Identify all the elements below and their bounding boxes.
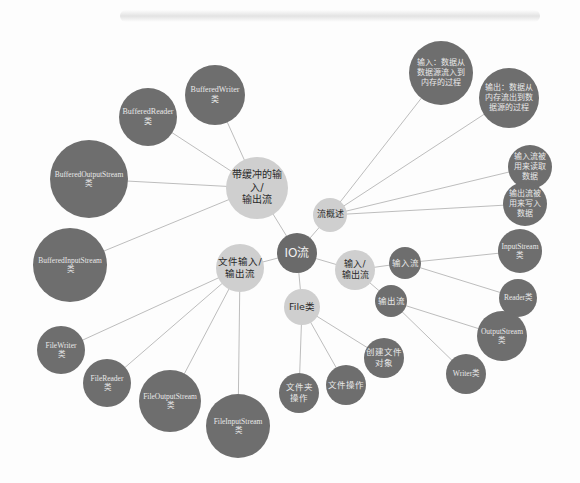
node-label: InputStream 类: [499, 242, 540, 261]
node-bw[interactable]: BufferedWriter 类: [185, 65, 245, 125]
node-label: 输出：数据从 内存流出到数 据源的过程: [483, 83, 535, 113]
node-fos[interactable]: FileOutputStream 类: [139, 370, 201, 432]
node-fr[interactable]: FileReader 类: [83, 359, 131, 407]
node-label: 输出流被 用来写入 数据: [507, 189, 543, 219]
node-label: 输入：数据从 数据源流入到 内存的过程: [415, 58, 467, 88]
mind-map-canvas: IO流带缓冲的输入/ 输出流流概述文件输入/ 输出流输入/ 输出流File类Bu…: [0, 0, 580, 483]
node-label: 文件操作: [326, 380, 366, 391]
node-label: 带缓冲的输入/ 输出流: [226, 169, 288, 207]
node-in_def[interactable]: 输入：数据从 数据源流入到 内存的过程: [409, 41, 473, 105]
node-fw[interactable]: FileWriter 类: [37, 326, 85, 374]
node-label: IO流: [283, 246, 312, 261]
node-label: 输出流: [376, 296, 407, 307]
node-label: FileReader 类: [89, 374, 126, 393]
node-file[interactable]: File类: [284, 289, 320, 325]
node-label: OutputStream 类: [479, 327, 525, 346]
node-label: Writer类: [451, 369, 481, 378]
node-io[interactable]: IO流: [277, 233, 317, 273]
node-writer[interactable]: Writer类: [446, 354, 486, 394]
node-label: FileInputStream 类: [212, 417, 265, 436]
edge-overview-out_use: [330, 204, 525, 215]
edge-overview-out_def: [330, 98, 509, 215]
node-create[interactable]: 创建文件 对象: [364, 338, 404, 378]
node-br[interactable]: BufferedReader 类: [119, 88, 177, 146]
node-fileio[interactable]: 文件输入/ 输出流: [216, 244, 264, 292]
node-label: 文件夹 操作: [284, 382, 315, 403]
node-label: 流概述: [315, 209, 346, 220]
node-label: BufferedInputStream 类: [36, 256, 104, 275]
node-label: FileOutputStream 类: [141, 392, 199, 411]
node-label: 文件输入/ 输出流: [216, 256, 263, 280]
node-label: 输入/ 输出流: [340, 259, 371, 282]
node-label: BufferedWriter 类: [189, 85, 242, 105]
node-is[interactable]: InputStream 类: [498, 229, 542, 273]
node-label: 输入流被 用来读取 数据: [512, 152, 548, 182]
edge-fileio-fr: [107, 268, 240, 383]
node-out_use[interactable]: 输出流被 用来写入 数据: [503, 182, 547, 226]
node-label: BufferedReader 类: [121, 107, 176, 127]
node-label: Reader类: [502, 293, 534, 302]
node-os[interactable]: OutputStream 类: [477, 311, 527, 361]
node-bis[interactable]: BufferedInputStream 类: [33, 228, 107, 302]
node-inout[interactable]: 输入/ 输出流: [335, 250, 375, 290]
node-folder[interactable]: 文件夹 操作: [279, 373, 319, 413]
node-overview[interactable]: 流概述: [313, 198, 347, 232]
node-label: 创建文件 对象: [364, 347, 404, 368]
node-fis[interactable]: FileInputStream 类: [206, 394, 270, 458]
node-instream[interactable]: 输入流: [389, 247, 421, 279]
node-label: 输入流: [390, 258, 421, 269]
node-buffered[interactable]: 带缓冲的输入/ 输出流: [226, 157, 288, 219]
node-out_def[interactable]: 输出：数据从 内存流出到数 据源的过程: [479, 68, 539, 128]
node-fileop[interactable]: 文件操作: [326, 365, 366, 405]
node-label: FileWriter 类: [44, 341, 79, 360]
node-outstream[interactable]: 输出流: [375, 285, 407, 317]
node-bos[interactable]: BufferedOutputStream 类: [50, 140, 128, 218]
edge-overview-in_use: [330, 167, 530, 215]
node-label: File类: [287, 301, 317, 313]
node-label: BufferedOutputStream 类: [53, 170, 126, 189]
